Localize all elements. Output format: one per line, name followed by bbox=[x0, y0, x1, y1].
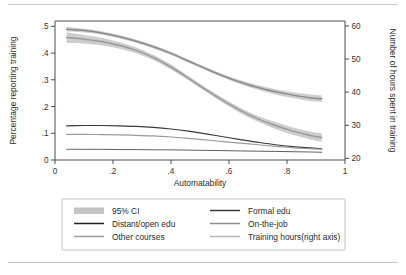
y2-axis-title: Number of hours spent in training bbox=[388, 29, 398, 153]
page-rule-bottom bbox=[8, 262, 398, 263]
legend-label-distant-open-edu: Distant/open edu bbox=[112, 219, 176, 229]
legend-label-on-the-job: On-the-job bbox=[248, 219, 288, 229]
legend-label-95-ci: 95% CI bbox=[112, 206, 139, 216]
confidence-interval-bands bbox=[67, 27, 322, 142]
ci-band-training-hours-right-axis bbox=[67, 27, 322, 102]
page-rule-top bbox=[8, 4, 398, 5]
x-tick-label: .6 bbox=[226, 167, 233, 176]
legend-swatch-95-ci bbox=[74, 208, 104, 215]
y2-tick-label: 60 bbox=[352, 22, 362, 31]
chart-legend: 95% CIFormal eduDistant/open eduOn-the-j… bbox=[62, 199, 345, 250]
series-line-on-the-job bbox=[67, 38, 322, 138]
y-axis-title: Percentage reporting training bbox=[8, 36, 18, 144]
y-tick-label: .5 bbox=[42, 22, 49, 31]
legend-box bbox=[62, 199, 345, 250]
x-tick-label: .4 bbox=[168, 167, 175, 176]
y2-tick-label: 40 bbox=[352, 88, 362, 97]
axes: 0.1.2.3.4.520304050600.2.4.6.81Automatab… bbox=[8, 21, 398, 188]
legend-label-training-hours-right-axis: Training hours(right axis) bbox=[248, 232, 341, 242]
y-tick-label: 0 bbox=[44, 156, 49, 165]
y2-tick-label: 20 bbox=[352, 154, 362, 163]
x-axis-title: Automatability bbox=[174, 178, 227, 188]
y-tick-label: .4 bbox=[42, 49, 49, 58]
y-tick-label: .1 bbox=[42, 129, 49, 138]
x-tick-label: 1 bbox=[343, 167, 348, 176]
x-tick-label: .2 bbox=[110, 167, 117, 176]
y-tick-label: .3 bbox=[42, 76, 49, 85]
chart-figure: 0.1.2.3.4.520304050600.2.4.6.81Automatab… bbox=[0, 10, 406, 260]
y-tick-label: .2 bbox=[42, 103, 49, 112]
legend-label-formal-edu: Formal edu bbox=[248, 206, 291, 216]
y2-tick-label: 30 bbox=[352, 121, 362, 130]
y2-tick-label: 50 bbox=[352, 55, 362, 64]
x-tick-label: 0 bbox=[53, 167, 58, 176]
legend-label-other-courses: Other courses bbox=[112, 232, 165, 242]
chart-canvas: 0.1.2.3.4.520304050600.2.4.6.81Automatab… bbox=[0, 10, 406, 260]
x-tick-label: .8 bbox=[284, 167, 291, 176]
series-line-other-courses bbox=[67, 134, 322, 149]
series-line-distant-open-edu bbox=[67, 149, 322, 152]
